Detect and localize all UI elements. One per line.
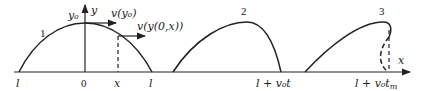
- x-axis: x: [14, 54, 410, 72]
- curve-2: 2: [173, 5, 281, 72]
- curve-3: 3: [305, 5, 391, 72]
- y-axis: y: [85, 4, 98, 72]
- tick-shift-tm: l + v₀tm: [355, 77, 398, 91]
- tick-right-l: l: [149, 77, 153, 90]
- peak-label: y₀: [67, 9, 79, 22]
- tick-shift-t: l + v₀t: [256, 77, 291, 90]
- curve-1-label: 1: [40, 27, 46, 39]
- y-axis-label: y: [90, 4, 98, 17]
- tick-labels: l 0 x l l + v₀t l + v₀tm: [16, 77, 398, 91]
- tick-left-l: l: [16, 77, 20, 90]
- velocity-x-label: v(y(0,x)): [137, 20, 183, 33]
- curve-2-label: 2: [241, 5, 247, 17]
- x-axis-label: x: [398, 54, 405, 67]
- curve-1: 1 y₀ v(y₀) v(y(0,x)): [19, 7, 183, 72]
- velocity-peak-label: v(y₀): [111, 7, 136, 20]
- tick-x: x: [114, 77, 121, 90]
- tick-origin: 0: [81, 77, 87, 89]
- curve-3-label: 3: [379, 5, 385, 17]
- wave-steepening-diagram: x y 1 y₀ v(y₀) v(y(0,x)) 2 3 l 0 x l l +…: [0, 0, 421, 91]
